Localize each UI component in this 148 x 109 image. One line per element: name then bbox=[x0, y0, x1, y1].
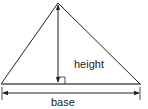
right-angle-marker bbox=[59, 77, 66, 84]
triangle-diagram: height base bbox=[0, 0, 148, 109]
base-label: base bbox=[51, 96, 75, 108]
triangle-outline bbox=[1, 3, 140, 84]
height-label: height bbox=[74, 58, 104, 70]
